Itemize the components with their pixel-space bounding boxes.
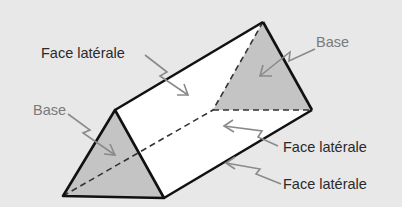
arrow-face-laterale-bottom-icon xyxy=(226,163,281,184)
label-face-laterale-mid: Face latérale xyxy=(283,139,367,155)
label-face-laterale-bottom: Face latérale xyxy=(283,176,367,192)
prism-figure: Face latérale Base Base Face latérale Fa… xyxy=(0,0,402,207)
label-base-left: Base xyxy=(33,102,66,118)
prism-diagram: Face latérale Base Base Face latérale Fa… xyxy=(0,0,402,207)
label-base-right: Base xyxy=(316,34,349,50)
label-face-laterale-top: Face latérale xyxy=(41,45,125,61)
